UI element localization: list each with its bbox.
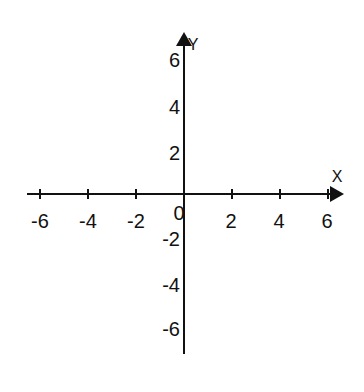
y-tick-label: 2	[169, 142, 180, 164]
y-tick-label: -6	[162, 318, 180, 340]
x-tick-label: 4	[273, 210, 284, 232]
y-tick-label: -4	[162, 274, 180, 296]
y-tick-label: 6	[169, 49, 180, 71]
x-tick-label: 2	[225, 210, 236, 232]
x-axis-arrow-icon	[330, 186, 344, 202]
x-tick-label: 6	[321, 210, 332, 232]
origin-label: 0	[173, 202, 184, 224]
coordinate-plane: -6 -4 -2 0 2 4 6 6 4 2 -2 -4 -6 X Y	[0, 0, 364, 392]
x-tick-label: -2	[127, 210, 145, 232]
x-tick-label: -4	[79, 210, 97, 232]
y-tick-label: 4	[169, 96, 180, 118]
y-tick-label: -2	[162, 228, 180, 250]
y-axis-label: Y	[188, 36, 199, 53]
x-tick-label: -6	[31, 210, 49, 232]
x-axis-label: X	[332, 168, 343, 185]
